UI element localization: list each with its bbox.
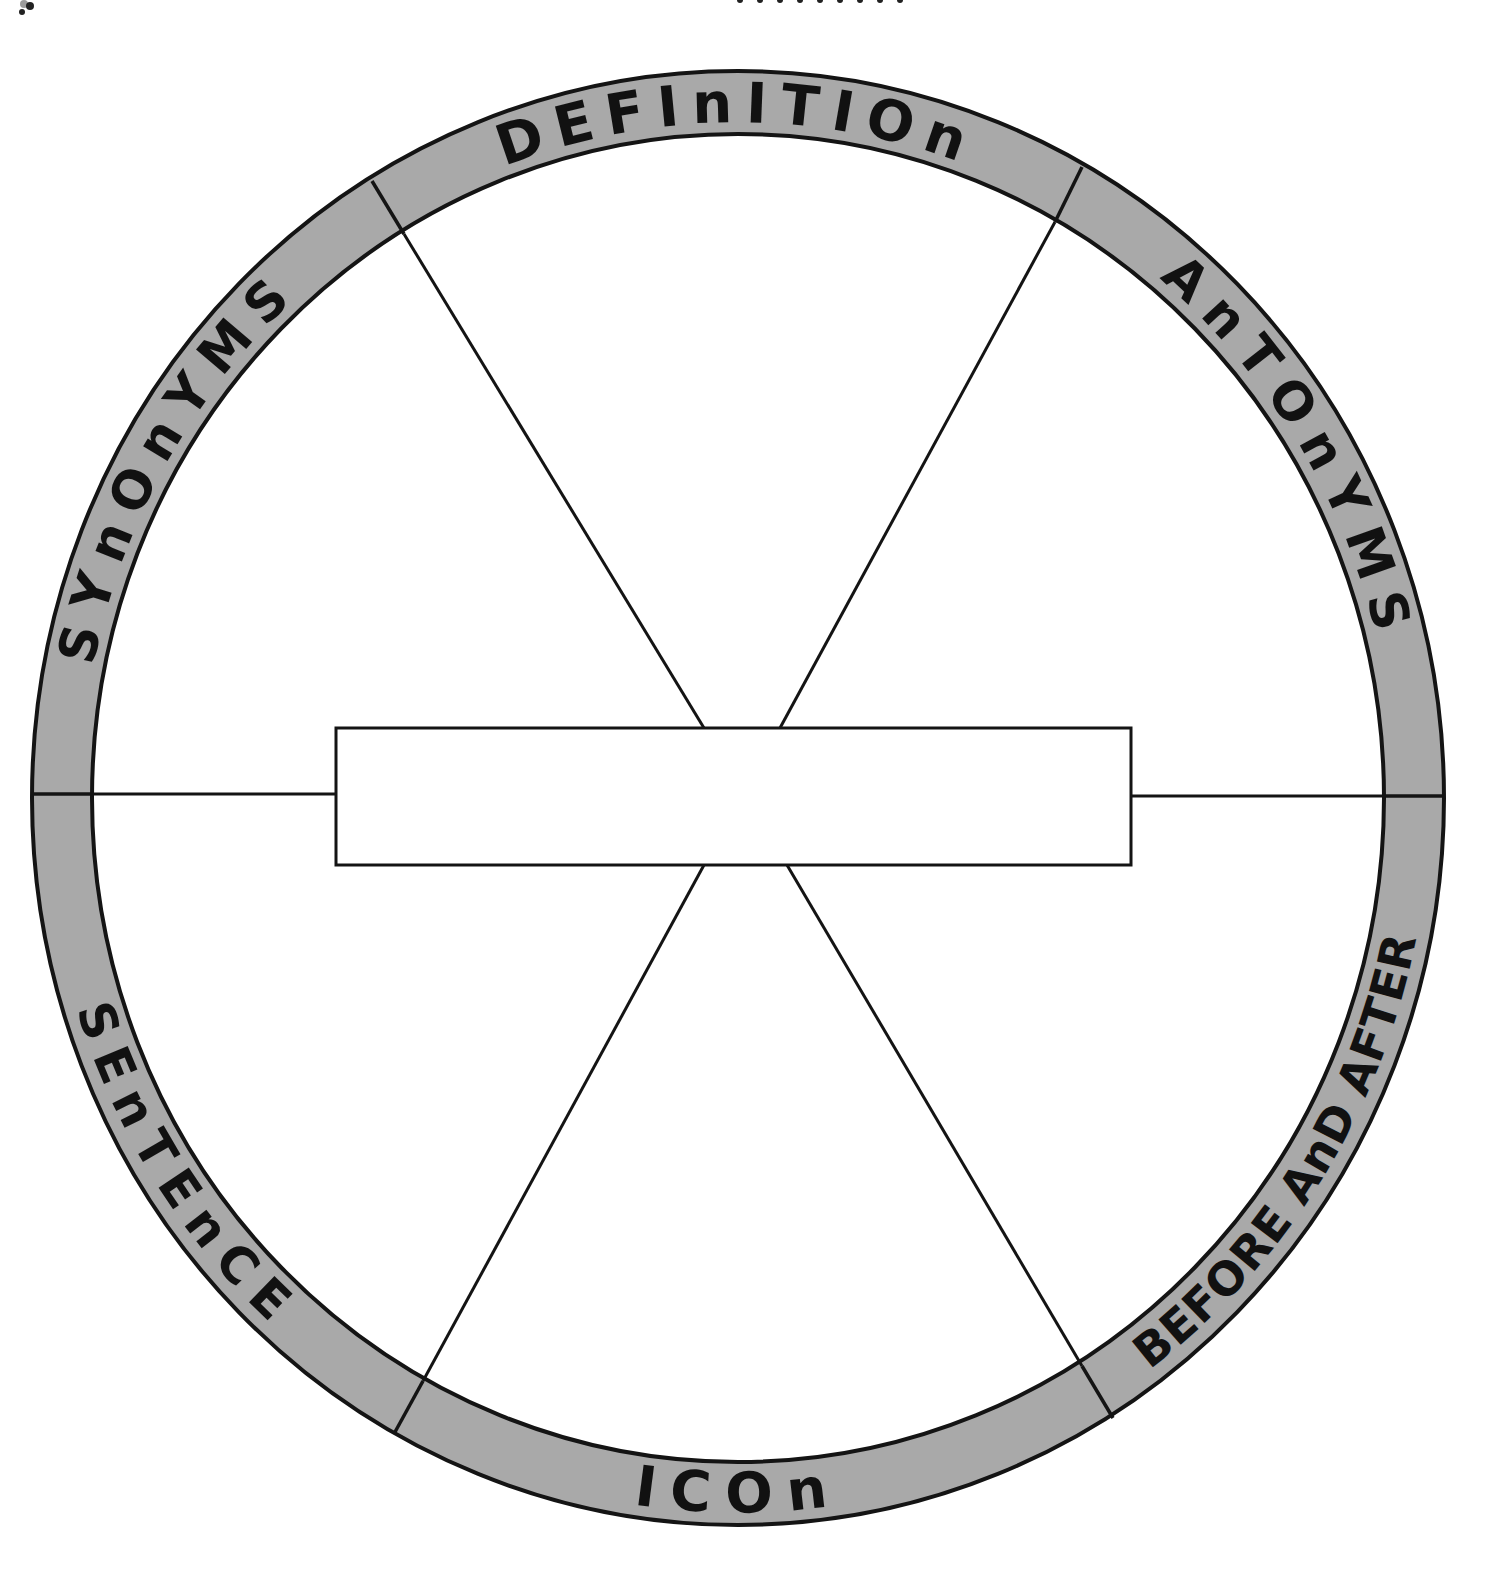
label-icon: ICOn [631,1453,844,1526]
spoke-lower-right [787,865,1082,1366]
center-word-box[interactable] [336,728,1131,865]
spoke-upper-left [404,234,704,728]
label-definition: DEFInITIOn [487,70,988,178]
spoke-lower-left [423,865,704,1381]
scan-artifacts [19,0,903,15]
label-sentence: SEnTEnCE [65,995,311,1340]
label-before-and-after: BEFORE AnD AFTER [1123,929,1427,1379]
label-synonyms: SYnOnYMS [46,256,312,669]
word-wheel-diagram: DEFInITIOn AnTOnYMS BEFORE AnD AFTER ICO… [0,0,1497,1583]
label-antonyms: AnTOnYMS [1151,243,1426,652]
spoke-upper-right [780,222,1055,728]
